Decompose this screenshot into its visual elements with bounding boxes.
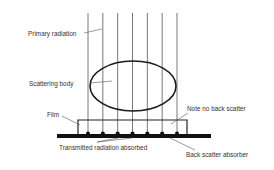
- label-film: Film: [47, 111, 59, 118]
- label-note-no-back-scatter: Note no back scatter: [187, 105, 246, 112]
- absorption-dot: [160, 132, 164, 136]
- label-scattering-body: Scattering body: [29, 80, 74, 88]
- leader-scattering-body: [90, 81, 112, 83]
- absorption-dot: [101, 132, 105, 136]
- absorption-dot: [131, 132, 135, 136]
- primary-beams: [88, 13, 177, 134]
- label-primary-radiation: Primary radiation: [28, 30, 77, 38]
- absorption-dot: [145, 132, 149, 136]
- label-back-scatter-absorber: Back scatter absorber: [186, 151, 249, 158]
- leader-primary-radiation: [84, 29, 102, 33]
- leader-note-no-back-scatter: [171, 113, 188, 124]
- absorption-dot: [86, 132, 90, 136]
- label-transmitted-radiation-absorbed: Transmitted radiation absorbed: [59, 144, 148, 151]
- leader-back-scatter-absorber: [170, 138, 195, 150]
- leader-film: [62, 116, 80, 125]
- radiography-diagram: Primary radiation Scattering body Film N…: [0, 0, 274, 170]
- absorption-dot: [116, 132, 120, 136]
- absorption-dot: [175, 132, 179, 136]
